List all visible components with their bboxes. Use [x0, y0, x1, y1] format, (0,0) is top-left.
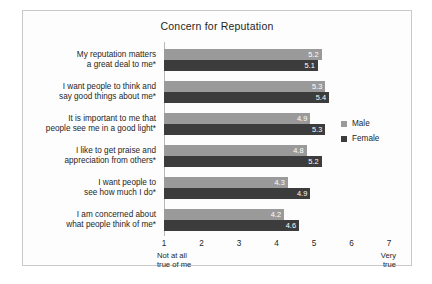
- bar-value-label: 4.8: [293, 147, 303, 154]
- legend-item-male: Male: [341, 119, 379, 128]
- category-label-line: It is important to me that: [16, 114, 156, 124]
- x-tick-label: 6: [342, 239, 362, 248]
- category-label: I like to get praise and appreciation fr…: [16, 146, 156, 165]
- bar-male: 4.3: [164, 177, 288, 188]
- category-label-line: My reputation matters: [16, 50, 156, 60]
- bar-female: 4.6: [164, 220, 299, 231]
- category-label-line: people see me in a good light*: [16, 124, 156, 134]
- bar-value-label: 5.3: [312, 83, 322, 90]
- value-axis-line: [164, 42, 165, 236]
- bar-value-label: 4.9: [297, 115, 307, 122]
- category-label-line: see how much I do*: [16, 188, 156, 198]
- legend-label: Male: [352, 119, 370, 128]
- category-label: My reputation matters a great deal to me…: [16, 50, 156, 69]
- bar-female: 5.2: [164, 156, 322, 167]
- category-label: I want people to see how much I do*: [16, 178, 156, 197]
- bar-female: 5.1: [164, 60, 318, 71]
- category-label-line: a great deal to me*: [16, 60, 156, 70]
- category-label-line: say good things about me*: [16, 92, 156, 102]
- x-tick-label: 4: [267, 239, 287, 248]
- bar-value-label: 4.9: [297, 190, 307, 197]
- bar-male: 4.2: [164, 209, 284, 220]
- bar-female: 5.3: [164, 124, 325, 135]
- x-tick-label: 2: [192, 239, 212, 248]
- bar-value-label: 5.2: [308, 158, 318, 165]
- bar-value-label: 5.3: [312, 126, 322, 133]
- axis-endpoint-line: true: [326, 260, 396, 269]
- x-tick-label: 7: [379, 239, 399, 248]
- bar-value-label: 4.2: [271, 211, 281, 218]
- category-label-line: I want people to think and: [16, 82, 156, 92]
- bar-value-label: 4.6: [286, 222, 296, 229]
- legend-swatch-icon: [341, 136, 347, 142]
- category-label: It is important to me that people see me…: [16, 114, 156, 133]
- chart-figure: Concern for Reputation My reputation mat…: [22, 10, 412, 266]
- category-label: I want people to think and say good thin…: [16, 82, 156, 101]
- bar-value-label: 4.3: [274, 179, 284, 186]
- bar-value-label: 5.1: [304, 62, 314, 69]
- axis-endpoint-label-right: Very true: [326, 251, 396, 270]
- axis-endpoint-line: true of me: [157, 260, 227, 269]
- category-label-line: I am concerned about: [16, 210, 156, 220]
- axis-endpoint-line: Very: [326, 251, 396, 260]
- x-tick-label: 5: [304, 239, 324, 248]
- bar-female: 5.4: [164, 92, 329, 103]
- category-label-line: appreciation from others*: [16, 156, 156, 166]
- legend-item-female: Female: [341, 134, 379, 143]
- x-tick-label: 1: [154, 239, 174, 248]
- plot-area: My reputation matters a great deal to me…: [23, 11, 411, 265]
- category-label-line: I want people to: [16, 178, 156, 188]
- category-label-line: what people think of me*: [16, 220, 156, 230]
- bar-value-label: 5.2: [308, 51, 318, 58]
- category-label-line: I like to get praise and: [16, 146, 156, 156]
- bar-male: 4.9: [164, 113, 310, 124]
- bar-male: 4.8: [164, 145, 307, 156]
- legend-label: Female: [352, 134, 379, 143]
- bar-female: 4.9: [164, 188, 310, 199]
- chart-legend: Male Female: [341, 119, 379, 149]
- legend-swatch-icon: [341, 121, 347, 127]
- x-tick-label: 3: [229, 239, 249, 248]
- axis-endpoint-label-left: Not at all true of me: [157, 251, 227, 270]
- axis-endpoint-line: Not at all: [157, 251, 227, 260]
- bar-value-label: 5.4: [316, 94, 326, 101]
- bar-male: 5.2: [164, 49, 322, 60]
- category-label: I am concerned about what people think o…: [16, 210, 156, 229]
- bar-male: 5.3: [164, 81, 325, 92]
